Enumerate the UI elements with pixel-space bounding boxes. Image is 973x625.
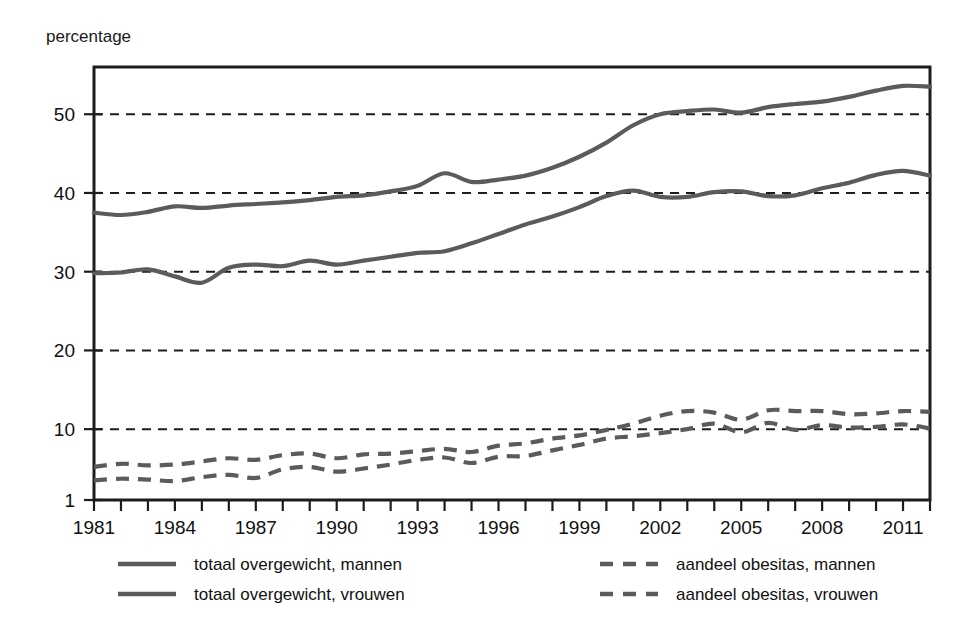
x-tick-label-1987: 1987 <box>235 517 277 538</box>
y-axis-tick-labels: 10203040501 <box>54 104 75 511</box>
x-tick-label-1990: 1990 <box>316 517 358 538</box>
x-tick-label-1996: 1996 <box>477 517 519 538</box>
legend-item: totaal overgewicht, vrouwen <box>118 585 405 604</box>
y-tick-label-40: 40 <box>54 183 75 204</box>
overweight-obesity-line-chart: percentage 10203040501 19811984198719901… <box>0 0 973 625</box>
x-tick-label-1984: 1984 <box>154 517 197 538</box>
legend-label: totaal overgewicht, vrouwen <box>194 585 405 604</box>
legend-label: totaal overgewicht, mannen <box>194 555 402 574</box>
x-tick-label-2008: 2008 <box>801 517 843 538</box>
y-axis-title: percentage <box>46 27 131 46</box>
y-tick-label-50: 50 <box>54 104 75 125</box>
legend-label: aandeel obesitas, vrouwen <box>676 585 878 604</box>
x-tick-label-2002: 2002 <box>639 517 681 538</box>
data-series-layer <box>94 86 930 481</box>
chart-container: percentage 10203040501 19811984198719901… <box>0 0 973 625</box>
legend-item: aandeel obesitas, mannen <box>600 555 875 574</box>
legend-item: totaal overgewicht, mannen <box>118 555 402 574</box>
legend-label: aandeel obesitas, mannen <box>676 555 875 574</box>
x-tick-label-2011: 2011 <box>883 517 924 538</box>
x-axis-ticks <box>94 500 930 511</box>
y-tick-label-20: 20 <box>54 340 75 361</box>
y-tick-label-10: 10 <box>54 419 75 440</box>
plot-frame <box>94 67 930 500</box>
x-tick-label-1981: 1981 <box>73 517 115 538</box>
legend-item: aandeel obesitas, vrouwen <box>600 585 878 604</box>
x-tick-label-2005: 2005 <box>720 517 762 538</box>
series-line-1 <box>94 171 930 283</box>
x-axis-tick-labels: 1981198419871990199319961999200220052008… <box>73 517 924 538</box>
y-axis-min-label: 1 <box>64 490 75 511</box>
y-tick-label-30: 30 <box>54 262 75 283</box>
series-line-0 <box>94 86 930 215</box>
x-tick-label-1999: 1999 <box>558 517 600 538</box>
series-line-3 <box>94 423 930 481</box>
x-tick-label-1993: 1993 <box>396 517 438 538</box>
chart-legend: totaal overgewicht, mannentotaal overgew… <box>118 555 878 604</box>
